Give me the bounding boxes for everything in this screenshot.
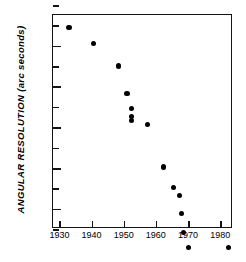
x-axis-tick [92,221,94,227]
x-axis-tick [124,221,126,227]
data-point [116,63,121,68]
data-point [171,185,176,190]
x-axis-tick-label: 1980 [200,231,240,240]
figure: ANGULAR RESOLUTION (arc seconds) 1041021… [0,0,246,262]
y-axis-tick [53,86,61,88]
y-axis-title: ANGULAR RESOLUTION (arc seconds) [15,14,26,226]
data-point [226,245,231,250]
data-point [91,41,96,46]
y-axis-minor-tick [53,5,59,7]
data-point [66,25,71,30]
data-point [129,106,134,111]
y-axis-minor-tick [53,107,59,109]
y-axis-minor-tick [53,66,59,68]
y-axis-minor-tick [53,188,59,190]
data-point [124,91,129,96]
data-point [161,164,166,169]
data-point [129,118,134,123]
data-point [179,211,184,216]
x-axis-tick [59,221,61,227]
data-point [177,193,182,198]
y-axis-tick [53,168,61,170]
y-axis-tick [53,127,61,129]
y-axis-minor-tick [53,148,59,150]
y-axis-tick [53,209,61,211]
y-axis-tick [53,46,61,48]
plot-area: 104102110−210−4 193019401950196019701980 [52,14,232,228]
data-point [145,122,150,127]
y-axis-minor-tick [53,25,59,27]
x-axis-tick [220,221,222,227]
x-axis-tick [188,221,190,227]
data-point [186,245,191,250]
x-axis-tick [156,221,158,227]
